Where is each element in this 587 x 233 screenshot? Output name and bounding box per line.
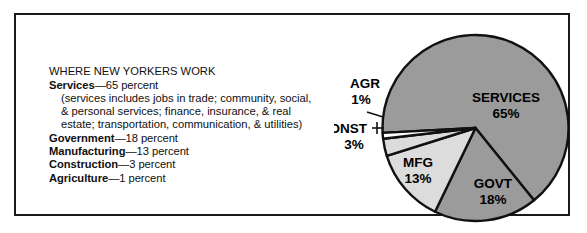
pie-label-govt-name: GOVT xyxy=(474,176,513,191)
pie-label-services-pct: 65% xyxy=(492,106,519,121)
legend-item-construction-label: Construction xyxy=(49,158,118,170)
legend-note-line-1: (services includes jobs in trade; commun… xyxy=(49,92,334,105)
legend-item-government-label: Government xyxy=(49,132,114,144)
pie-label-agr-pct: 1% xyxy=(351,92,371,107)
legend-title: WHERE NEW YORKERS WORK xyxy=(49,65,334,79)
figure-canvas: WHERE NEW YORKERS WORK Services—65 perce… xyxy=(0,0,587,233)
agr-leader-line xyxy=(367,112,383,117)
legend-item-services: Services—65 percent xyxy=(49,79,334,92)
legend-item-agriculture: Agriculture—1 percent xyxy=(49,172,334,185)
legend-item-agriculture-label: Agriculture xyxy=(49,172,108,184)
pie-chart-svg: SERVICES 65% GOVT 18% MFG 13% CONST 3% A… xyxy=(334,28,586,231)
legend-text-block: WHERE NEW YORKERS WORK Services—65 perce… xyxy=(49,65,334,185)
legend-item-services-value: —65 percent xyxy=(95,79,159,91)
legend-note-line-2: & personal services; finance, insurance,… xyxy=(49,105,334,118)
legend-item-construction: Construction—3 percent xyxy=(49,158,334,171)
legend-item-construction-value: —3 percent xyxy=(118,158,175,170)
pie-label-const-pct: 3% xyxy=(344,137,364,152)
pie-label-mfg-name: MFG xyxy=(403,155,433,170)
legend-item-manufacturing: Manufacturing—13 percent xyxy=(49,145,334,158)
pie-label-const-name: CONST xyxy=(334,121,368,136)
legend-note-line-3: estate; transportation, communication, &… xyxy=(49,118,334,131)
legend-item-government: Government—18 percent xyxy=(49,132,334,145)
legend-item-manufacturing-label: Manufacturing xyxy=(49,145,125,157)
legend-item-manufacturing-value: —13 percent xyxy=(125,145,189,157)
pie-label-agr-name: AGR xyxy=(350,76,380,91)
pie-label-govt-pct: 18% xyxy=(479,192,506,207)
legend-item-services-label: Services xyxy=(49,79,95,91)
legend-item-government-value: —18 percent xyxy=(114,132,178,144)
pie-label-mfg-pct: 13% xyxy=(404,171,431,186)
pie-chart-area: SERVICES 65% GOVT 18% MFG 13% CONST 3% A… xyxy=(334,28,586,231)
pie-label-services-name: SERVICES xyxy=(472,90,540,105)
figure-frame: WHERE NEW YORKERS WORK Services—65 perce… xyxy=(14,13,570,216)
legend-item-agriculture-value: —1 percent xyxy=(108,172,165,184)
